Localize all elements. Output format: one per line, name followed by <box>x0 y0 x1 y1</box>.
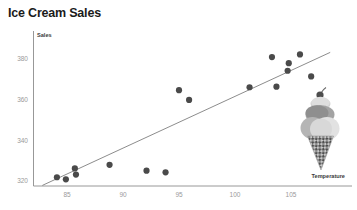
data-point <box>106 162 112 168</box>
data-point <box>143 168 149 174</box>
data-point <box>162 169 168 175</box>
chart-container: Ice Cream Sales Sales Temperature 380 36… <box>0 0 357 210</box>
data-point <box>186 97 192 103</box>
data-point <box>54 174 60 180</box>
data-point <box>297 51 303 57</box>
data-point <box>269 54 275 60</box>
x-tick-label: 85 <box>63 191 71 198</box>
y-tick-label: 320 <box>17 177 28 184</box>
y-axis-title: Sales <box>37 32 52 38</box>
x-tick-label: 100 <box>230 191 241 198</box>
data-point <box>73 171 79 177</box>
y-tick-label: 340 <box>17 137 28 144</box>
data-point-group <box>54 51 314 182</box>
data-point <box>285 68 291 74</box>
data-point <box>72 165 78 171</box>
y-tick-label: 360 <box>17 96 28 103</box>
data-point <box>246 84 252 90</box>
x-tick-label: 95 <box>175 191 183 198</box>
x-tick-label: 90 <box>119 191 127 198</box>
x-tick-label: 105 <box>286 191 297 198</box>
data-point <box>308 73 314 79</box>
x-axis-title: Temperature <box>312 173 345 179</box>
ice-cream-cone-icon <box>295 84 347 172</box>
y-tick-label: 380 <box>17 55 28 62</box>
data-point <box>286 60 292 66</box>
data-point <box>273 84 279 90</box>
data-point <box>63 176 69 182</box>
data-point <box>176 87 182 93</box>
